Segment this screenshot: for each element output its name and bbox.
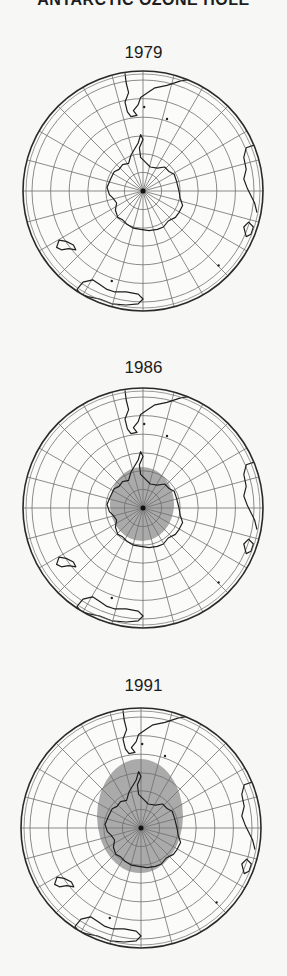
south-polar-globe-1991 — [0, 0, 287, 976]
south-pole-marker — [139, 826, 144, 831]
